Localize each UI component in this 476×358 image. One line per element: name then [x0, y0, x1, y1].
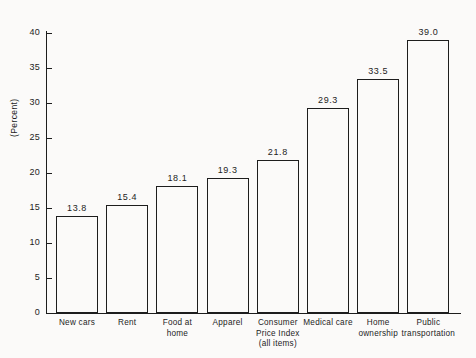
y-axis-tick-mark: [46, 208, 52, 209]
y-axis-tick-label: 20: [29, 167, 40, 178]
y-axis-tick-mark: [46, 103, 52, 104]
y-axis-tick-label: 25: [29, 132, 40, 143]
bar: [106, 205, 148, 313]
bar-group: 18.1: [156, 33, 198, 313]
bar: [156, 186, 198, 313]
y-axis-tick-label: 0: [35, 307, 40, 318]
bar: [207, 178, 249, 313]
bar-group: 19.3: [207, 33, 249, 313]
y-axis-tick-label: 15: [29, 202, 40, 213]
y-axis-tick-mark: [46, 313, 52, 314]
y-axis-tick-label: 5: [35, 272, 40, 283]
plot-area: 0510152025303540 13.815.418.119.321.829.…: [46, 33, 460, 313]
bar-value-label: 39.0: [418, 27, 438, 37]
y-axis-tick-label: 10: [29, 237, 40, 248]
y-axis-tick-mark: [46, 173, 52, 174]
bar-group: 29.3: [307, 33, 349, 313]
y-axis-tick-label: 35: [29, 62, 40, 73]
bar: [357, 79, 399, 314]
bar-value-label: 33.5: [368, 66, 388, 76]
bar-group: 13.8: [56, 33, 98, 313]
category-label-line: home: [146, 329, 208, 340]
x-axis-category-label: Publictransportation: [397, 318, 459, 339]
bar-value-label: 18.1: [167, 173, 187, 183]
y-axis-tick-mark: [46, 278, 52, 279]
bar-value-label: 19.3: [218, 165, 238, 175]
bar-group: 21.8: [257, 33, 299, 313]
bar-value-label: 29.3: [318, 95, 338, 105]
category-label-line: Public: [397, 318, 459, 329]
y-axis-tick-mark: [46, 138, 52, 139]
bar-chart: (Percent) 0510152025303540 13.815.418.11…: [0, 0, 476, 358]
bar: [307, 108, 349, 313]
y-axis-tick-label: 30: [29, 97, 40, 108]
bar-group: 39.0: [407, 33, 449, 313]
y-axis-tick-label: 40: [29, 27, 40, 38]
bar-value-label: 15.4: [117, 192, 137, 202]
x-axis-line: [46, 313, 461, 314]
category-label-line: (all items): [247, 339, 309, 350]
y-axis-tick-mark: [46, 68, 52, 69]
bar-value-label: 21.8: [268, 147, 288, 157]
y-axis-tick-mark: [46, 33, 52, 34]
bar-group: 15.4: [106, 33, 148, 313]
bar-value-label: 13.8: [67, 203, 87, 213]
bar: [407, 40, 449, 313]
category-label-line: transportation: [397, 329, 459, 340]
bar-group: 33.5: [357, 33, 399, 313]
y-axis-title: (Percent): [9, 98, 19, 137]
category-label-line: Price Index: [247, 329, 309, 340]
bar: [56, 216, 98, 313]
y-axis-tick-mark: [46, 243, 52, 244]
bar: [257, 160, 299, 313]
